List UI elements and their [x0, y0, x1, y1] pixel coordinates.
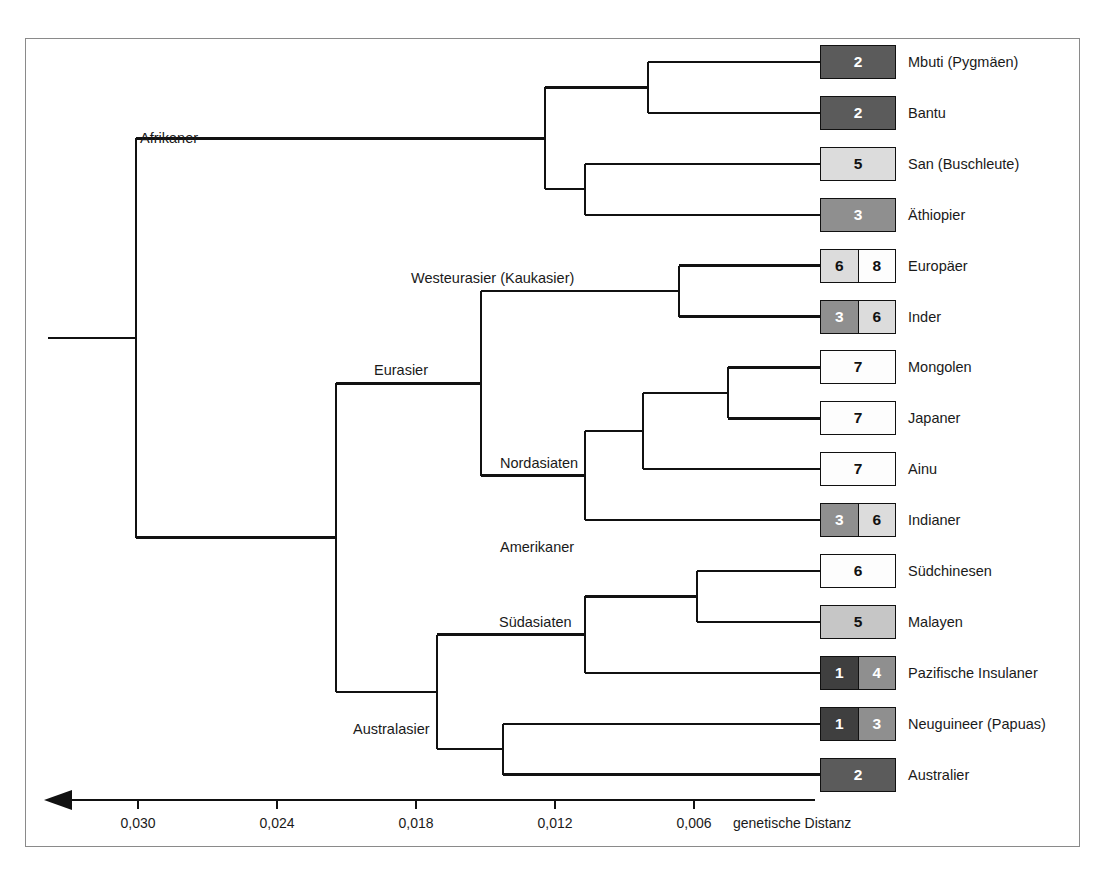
internal-node-label: Afrikaner [140, 131, 198, 146]
leaf-label: Neuguineer (Papuas) [908, 717, 1046, 732]
leaf-chip-value: 3 [858, 708, 896, 740]
leaf-chip: 5 [820, 147, 896, 181]
leaf-label: Malayen [908, 615, 963, 630]
internal-node-label: Eurasier [374, 363, 428, 378]
leaf-chip-value: 3 [821, 301, 858, 333]
figure-canvas: 22536836777366514132 Mbuti (Pygmäen)Bant… [0, 0, 1105, 869]
leaf-chip: 2 [820, 96, 896, 130]
leaf-chip: 3 [820, 198, 896, 232]
leaf-chip: 6 [820, 554, 896, 588]
internal-node-label: Südasiaten [499, 615, 572, 630]
axis-title: genetische Distanz [733, 816, 851, 830]
axis-tick-label: 0,030 [120, 816, 155, 830]
leaf-chip: 13 [820, 707, 896, 741]
leaf-chip: 68 [820, 249, 896, 283]
leaf-chip-value: 7 [821, 402, 895, 434]
leaf-label: Mbuti (Pygmäen) [908, 55, 1018, 70]
axis-tick-label: 0,006 [676, 816, 711, 830]
leaf-label: Inder [908, 310, 941, 325]
leaf-label: Indianer [908, 513, 960, 528]
leaf-chip-value: 4 [858, 657, 896, 689]
leaf-chip-value: 5 [821, 606, 895, 638]
axis-tick-label: 0,018 [398, 816, 433, 830]
leaf-chip-value: 2 [821, 97, 895, 129]
leaf-chip-value: 1 [821, 657, 858, 689]
leaf-label: Ainu [908, 462, 937, 477]
leaf-chip: 2 [820, 45, 896, 79]
leaf-label: Bantu [908, 106, 946, 121]
leaf-chip-value: 7 [821, 453, 895, 485]
leaf-chip-value: 6 [858, 504, 896, 536]
leaf-chip: 7 [820, 452, 896, 486]
leaf-label: Südchinesen [908, 564, 992, 579]
leaf-label: Japaner [908, 411, 960, 426]
leaf-chip-value: 7 [821, 351, 895, 383]
leaf-chip: 36 [820, 503, 896, 537]
leaf-chip-value: 6 [821, 250, 858, 282]
leaf-label: San (Buschleute) [908, 157, 1019, 172]
axis-tick-label: 0,012 [537, 816, 572, 830]
leaf-chip-value: 2 [821, 759, 895, 791]
leaf-chip: 7 [820, 350, 896, 384]
internal-node-label: Australasier [353, 722, 430, 737]
leaf-label: Äthiopier [908, 208, 965, 223]
internal-node-label: Westeurasier (Kaukasier) [411, 271, 574, 286]
leaf-label: Europäer [908, 259, 968, 274]
axis-tick-label: 0,024 [259, 816, 294, 830]
leaf-chip-value: 2 [821, 46, 895, 78]
leaf-label: Mongolen [908, 360, 972, 375]
leaf-chip-value: 1 [821, 708, 858, 740]
leaf-chip: 36 [820, 300, 896, 334]
leaf-chip-value: 6 [858, 301, 896, 333]
leaf-chip: 14 [820, 656, 896, 690]
leaf-chip-value: 3 [821, 199, 895, 231]
leaf-chip-value: 8 [858, 250, 896, 282]
axis-arrow-left-icon [44, 790, 72, 810]
leaf-chip: 2 [820, 758, 896, 792]
leaf-chip-value: 6 [821, 555, 895, 587]
leaf-label: Pazifische Insulaner [908, 666, 1038, 681]
internal-node-label: Nordasiaten [500, 456, 578, 471]
leaf-chip: 7 [820, 401, 896, 435]
leaf-label: Australier [908, 768, 969, 783]
leaf-chip-value: 5 [821, 148, 895, 180]
internal-node-label: Amerikaner [500, 540, 574, 555]
leaf-chip-value: 3 [821, 504, 858, 536]
leaf-chip: 5 [820, 605, 896, 639]
